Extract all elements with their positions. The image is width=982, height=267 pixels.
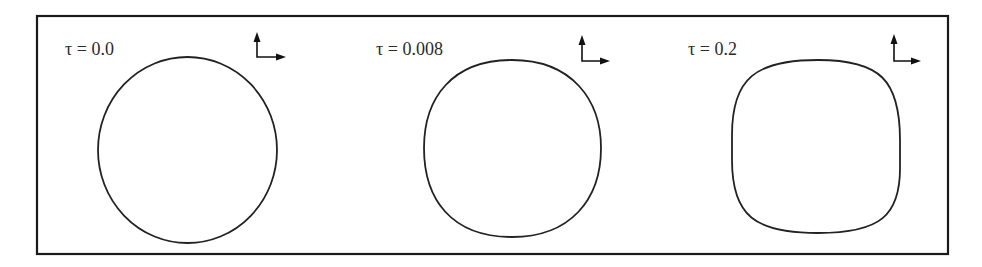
panel-tau-0-008: τ = 0.008 (376, 35, 610, 237)
panel-tau-0-2: τ = 0.2 (688, 34, 921, 233)
panel-label: τ = 0.2 (688, 39, 737, 59)
arrow-right-icon (600, 58, 610, 65)
arrow-right-icon (276, 54, 286, 61)
panel-tau-0: τ = 0.0 (65, 32, 286, 243)
figure-frame (37, 16, 948, 254)
circle-shape (98, 57, 277, 243)
panel-label: τ = 0.008 (376, 39, 443, 59)
axes-icon (579, 35, 611, 65)
arrow-up-icon (891, 34, 898, 44)
shape-evolution-figure: τ = 0.0 τ = 0.008 τ = 0.2 (0, 0, 982, 267)
arrow-up-icon (254, 32, 261, 42)
arrow-up-icon (579, 35, 586, 45)
axes-icon (891, 34, 922, 65)
rounded-circle-shape (424, 60, 601, 237)
axes-icon (254, 32, 287, 61)
rounded-square-shape (732, 60, 900, 233)
arrow-right-icon (911, 58, 921, 65)
panel-label: τ = 0.0 (65, 39, 114, 59)
